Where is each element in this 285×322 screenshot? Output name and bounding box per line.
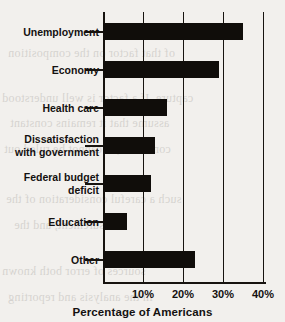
category-label-line: with government (0, 146, 99, 159)
x-tick-label-40: 40% (252, 288, 274, 300)
leader-line (85, 221, 105, 223)
bar-federal-budget-deficit (103, 175, 151, 192)
leader-line (85, 107, 105, 109)
bar-education (103, 213, 127, 230)
x-tick-label-30: 30% (212, 288, 234, 300)
category-label-line: Federal budget (0, 171, 99, 184)
leader-line (85, 69, 105, 71)
bar-other (103, 251, 195, 268)
bar-chart: Unemployment Economy Health care Dissati… (0, 0, 285, 322)
leader-line (85, 183, 105, 185)
category-label-line: Dissatisfaction (0, 133, 99, 146)
plot-area (103, 12, 266, 284)
x-tick-label-20: 20% (172, 288, 194, 300)
category-label-line: deficit (0, 184, 99, 197)
x-tick-label-10: 10% (132, 288, 154, 300)
bar-economy (103, 61, 219, 78)
bar-dissatisfaction-with-government (103, 137, 155, 154)
leader-line (85, 259, 105, 261)
bar-health-care (103, 99, 167, 116)
leader-line (85, 31, 105, 33)
x-axis-title: Percentage of Americans (0, 306, 285, 318)
bar-series (103, 12, 266, 284)
bar-unemployment (103, 23, 243, 40)
leader-line (85, 145, 105, 147)
